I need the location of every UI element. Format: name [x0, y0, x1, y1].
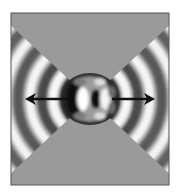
- dipole-radiation-figure: [0, 0, 180, 193]
